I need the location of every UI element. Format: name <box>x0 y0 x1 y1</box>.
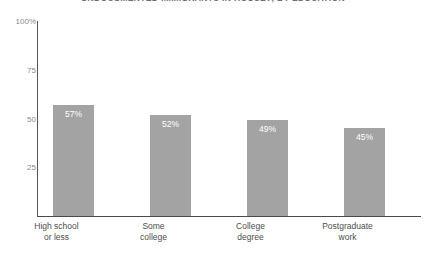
bar-value-label: 57% <box>53 109 94 119</box>
plot-area: 57% 52% 49% 45% <box>37 21 421 216</box>
category-label-line-1: High school <box>13 221 100 232</box>
bar-some-college[interactable]: 52% <box>150 115 191 216</box>
bar-high-school-or-less[interactable]: 57% <box>53 105 94 216</box>
category-label-line-2: college <box>110 232 197 243</box>
category-label-postgraduate-work: Postgraduate work <box>304 221 391 242</box>
category-label-line-2: degree <box>207 232 294 243</box>
bar-college-degree[interactable]: 49% <box>247 120 288 216</box>
y-tick-label-50: 50 <box>3 115 36 124</box>
category-label-line-2: work <box>304 232 391 243</box>
x-axis-baseline <box>37 216 421 217</box>
category-label-line-1: College <box>207 221 294 232</box>
y-axis-tick-labels: 100% 75 50 25 <box>0 0 36 253</box>
y-tick-label-100: 100% <box>3 17 36 26</box>
bar-value-label: 52% <box>150 119 191 129</box>
y-tick-label-75: 75 <box>3 66 36 75</box>
bar-chart: UNDOCUMENTED IMMIGRANTS IN HOUSE?, BY ED… <box>0 0 426 253</box>
category-label-line-2: or less <box>13 232 100 243</box>
category-label-line-1: Some <box>110 221 197 232</box>
category-label-some-college: Some college <box>110 221 197 242</box>
bar-value-label: 49% <box>247 124 288 134</box>
category-label-high-school-or-less: High school or less <box>13 221 100 242</box>
bar-value-label: 45% <box>344 132 385 142</box>
y-tick-label-25: 25 <box>3 163 36 172</box>
bar-postgraduate-work[interactable]: 45% <box>344 128 385 216</box>
chart-title: UNDOCUMENTED IMMIGRANTS IN HOUSE?, BY ED… <box>0 0 426 3</box>
category-label-line-1: Postgraduate <box>304 221 391 232</box>
category-label-college-degree: College degree <box>207 221 294 242</box>
